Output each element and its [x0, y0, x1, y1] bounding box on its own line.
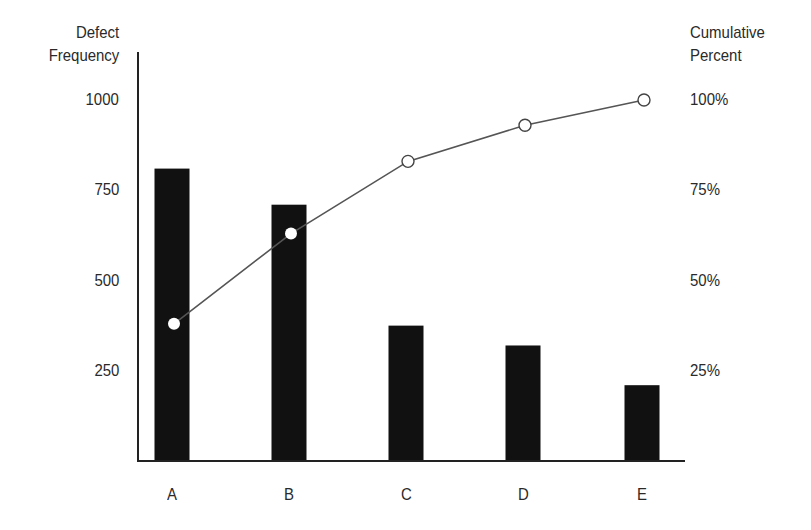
cumulative-markers — [168, 94, 650, 330]
marker-b — [285, 228, 297, 240]
bar-e — [625, 385, 660, 461]
pareto-chart — [0, 0, 811, 530]
marker-a — [168, 318, 180, 330]
marker-d — [519, 119, 531, 131]
bar-c — [389, 326, 424, 461]
bar-a — [155, 169, 190, 461]
marker-e — [638, 94, 650, 106]
cumulative-line — [174, 100, 644, 324]
bar-b — [272, 205, 307, 461]
bars-group — [155, 169, 660, 461]
marker-c — [402, 155, 414, 167]
bar-d — [506, 345, 541, 461]
